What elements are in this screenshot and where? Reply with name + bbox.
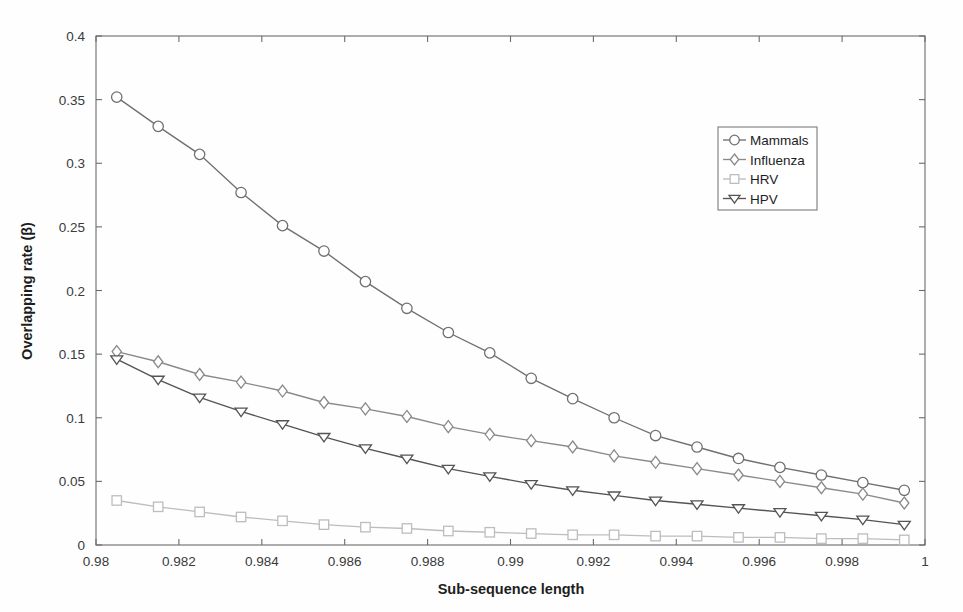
data-point-marker: [898, 521, 910, 529]
y-axis-title: Overlapping rate (β): [19, 222, 35, 360]
data-point-marker: [154, 356, 163, 368]
x-tick-label: 0.996: [742, 554, 776, 569]
circle-marker-icon: [112, 92, 122, 102]
data-point-marker: [444, 526, 453, 535]
x-tick-label: 0.998: [825, 554, 859, 569]
circle-marker-icon: [526, 373, 536, 383]
x-axis-ticks: 0.980.9820.9840.9860.9880.990.9920.9940.…: [83, 36, 929, 569]
square-marker-icon: [730, 175, 739, 184]
data-point-marker: [733, 453, 743, 463]
square-marker-icon: [402, 524, 411, 533]
data-point-marker: [650, 430, 660, 440]
diamond-marker-icon: [900, 497, 909, 509]
square-marker-icon: [900, 535, 909, 544]
data-point-marker: [526, 373, 536, 383]
square-marker-icon: [568, 530, 577, 539]
y-tick-label: 0: [77, 538, 85, 553]
data-point-marker: [692, 463, 701, 475]
triangle-down-marker-icon: [152, 376, 164, 384]
x-tick-label: 0.988: [411, 554, 445, 569]
data-point-marker: [730, 175, 739, 184]
square-marker-icon: [361, 522, 370, 531]
diamond-marker-icon: [817, 482, 826, 494]
data-point-marker: [858, 488, 867, 500]
square-marker-icon: [195, 507, 204, 516]
data-point-marker: [485, 348, 495, 358]
data-point-marker: [153, 121, 163, 131]
diamond-marker-icon: [485, 428, 494, 440]
data-point-marker: [236, 187, 246, 197]
circle-marker-icon: [277, 220, 287, 230]
data-point-marker: [319, 246, 329, 256]
square-marker-icon: [153, 502, 162, 511]
plot-frame: [96, 36, 925, 545]
data-point-marker: [900, 535, 909, 544]
data-point-marker: [152, 376, 164, 384]
legend-entry-label: HRV: [750, 172, 778, 187]
circle-marker-icon: [609, 413, 619, 423]
diamond-marker-icon: [734, 469, 743, 481]
legend-entry-label: Mammals: [750, 133, 809, 148]
data-point-marker: [568, 441, 577, 453]
data-point-marker: [816, 470, 826, 480]
data-point-marker: [485, 528, 494, 537]
x-tick-label: 0.992: [577, 554, 611, 569]
figure-canvas: 0.980.9820.9840.9860.9880.990.9920.9940.…: [0, 0, 963, 612]
diamond-marker-icon: [402, 410, 411, 422]
data-point-marker: [402, 410, 411, 422]
square-marker-icon: [236, 512, 245, 521]
x-axis-title: Sub-sequence length: [438, 581, 585, 597]
data-point-marker: [527, 529, 536, 538]
square-marker-icon: [609, 530, 618, 539]
circle-marker-icon: [692, 442, 702, 452]
circle-marker-icon: [816, 470, 826, 480]
square-marker-icon: [444, 526, 453, 535]
data-point-marker: [278, 516, 287, 525]
plot-area-border: [96, 36, 925, 545]
data-point-marker: [692, 442, 702, 452]
circle-marker-icon: [443, 327, 453, 337]
data-point-marker: [734, 469, 743, 481]
series-line-hrv: [117, 500, 905, 539]
data-point-marker: [361, 522, 370, 531]
y-tick-label: 0.35: [59, 93, 85, 108]
legend-entry-label: HPV: [750, 192, 778, 207]
chart-legend[interactable]: MammalsInfluenzaHRVHPV: [718, 127, 817, 210]
data-point-marker: [899, 485, 909, 495]
x-tick-label: 0.99: [497, 554, 523, 569]
y-tick-label: 0.2: [66, 284, 85, 299]
data-point-marker: [444, 421, 453, 433]
circle-marker-icon: [485, 348, 495, 358]
circle-marker-icon: [730, 135, 740, 145]
legend-entry-label: Influenza: [750, 153, 805, 168]
series-hrv: [112, 496, 909, 545]
y-tick-label: 0.25: [59, 220, 85, 235]
diamond-marker-icon: [236, 376, 245, 388]
circle-marker-icon: [775, 462, 785, 472]
data-point-marker: [443, 327, 453, 337]
data-point-marker: [111, 356, 123, 364]
data-point-marker: [858, 534, 867, 543]
x-tick-label: 0.98: [83, 554, 109, 569]
diamond-marker-icon: [610, 450, 619, 462]
data-point-marker: [485, 428, 494, 440]
data-point-marker: [195, 507, 204, 516]
data-point-marker: [817, 482, 826, 494]
circle-marker-icon: [319, 246, 329, 256]
data-point-marker: [277, 220, 287, 230]
circle-marker-icon: [194, 149, 204, 159]
x-tick-label: 0.986: [328, 554, 362, 569]
data-point-marker: [730, 135, 740, 145]
data-point-marker: [236, 512, 245, 521]
square-marker-icon: [817, 534, 826, 543]
square-marker-icon: [112, 496, 121, 505]
data-point-marker: [651, 531, 660, 540]
data-point-marker: [858, 477, 868, 487]
circle-marker-icon: [360, 276, 370, 286]
data-point-marker: [900, 497, 909, 509]
data-point-marker: [734, 533, 743, 542]
data-point-marker: [194, 149, 204, 159]
y-tick-label: 0.05: [59, 474, 85, 489]
diamond-marker-icon: [775, 475, 784, 487]
data-point-marker: [153, 502, 162, 511]
